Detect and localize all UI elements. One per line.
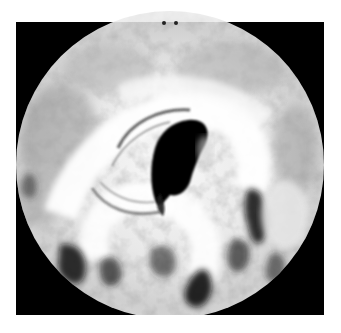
top-margin bbox=[0, 0, 341, 22]
top-marker-dot bbox=[162, 21, 166, 25]
top-marker-dot bbox=[174, 21, 178, 25]
cyclone-satellite-image bbox=[0, 0, 341, 333]
eyewall-highlight bbox=[197, 136, 213, 164]
convective-cloud-mass bbox=[261, 180, 309, 250]
bottom-margin bbox=[0, 315, 341, 333]
cyclone-disk bbox=[0, 0, 341, 333]
